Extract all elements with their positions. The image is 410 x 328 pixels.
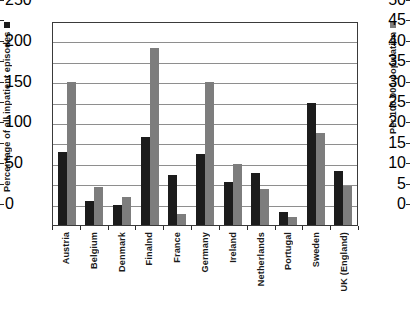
category-label: Ireland — [228, 232, 238, 263]
bar-per-100000-population — [288, 217, 297, 225]
left-tick-mark — [406, 82, 410, 83]
bar-group — [329, 23, 357, 225]
bar-per-100000-population — [316, 133, 325, 225]
right-tick-label: 200 — [5, 32, 32, 50]
category-label: UK (England) — [339, 232, 349, 291]
left-tick-label: 40 — [388, 32, 406, 50]
right-tick-mark — [0, 163, 4, 164]
legend-swatch-percentage — [4, 22, 10, 28]
bar-group — [108, 23, 136, 225]
bar-per-100000-population — [177, 214, 186, 225]
right-tick-mark — [0, 204, 4, 205]
left-tick-label: 25 — [388, 93, 406, 111]
category-tick-marks — [52, 226, 358, 231]
right-tick-mark — [0, 102, 4, 103]
bar-per-100000-population — [233, 164, 242, 225]
left-tick-mark — [406, 0, 410, 1]
right-tick-label: 50 — [5, 154, 23, 172]
left-tick-mark — [406, 163, 410, 164]
bar-chart: Percentage of all inpatient episodes Per… — [0, 0, 410, 328]
left-tick-label: 30 — [388, 73, 406, 91]
left-tick-label: 35 — [388, 52, 406, 70]
bar-group — [219, 23, 247, 225]
bar-percentage-inpatient-episodes — [224, 182, 233, 225]
category-tick-mark — [191, 226, 192, 230]
left-tick-mark — [406, 61, 410, 62]
left-tick-label: 5 — [397, 175, 406, 193]
right-tick-mark — [0, 82, 4, 83]
left-tick-label: 50 — [388, 0, 406, 9]
right-tick-label: 100 — [5, 113, 32, 131]
left-tick-mark — [406, 143, 410, 144]
bar-per-100000-population — [205, 82, 214, 225]
bar-group — [164, 23, 192, 225]
category-tick-mark — [52, 226, 53, 230]
bar-per-100000-population — [343, 186, 352, 225]
bar-per-100000-population — [260, 189, 269, 225]
bar-per-100000-population — [122, 197, 131, 225]
bar-percentage-inpatient-episodes — [58, 152, 67, 225]
category-label: Belgium — [89, 232, 99, 269]
category-tick-mark — [135, 226, 136, 230]
right-tick-mark — [0, 41, 4, 42]
right-tick-mark — [0, 184, 4, 185]
category-label: Portugal — [283, 232, 293, 270]
bar-percentage-inpatient-episodes — [334, 171, 343, 225]
right-tick-mark — [0, 143, 4, 144]
bar-percentage-inpatient-episodes — [113, 205, 122, 225]
bar-percentage-inpatient-episodes — [307, 103, 316, 225]
left-tick-mark — [406, 122, 410, 123]
bar-per-100000-population — [94, 187, 103, 225]
bar-group — [191, 23, 219, 225]
category-label: Sweden — [311, 232, 321, 267]
left-tick-label: 45 — [388, 11, 406, 29]
category-label: Germany — [200, 232, 210, 273]
plot-area — [52, 22, 358, 226]
bar-group — [302, 23, 330, 225]
bar-group — [246, 23, 274, 225]
bar-percentage-inpatient-episodes — [168, 175, 177, 225]
right-tick-mark — [0, 122, 4, 123]
category-tick-mark — [163, 226, 164, 230]
right-tick-label: 150 — [5, 73, 32, 91]
category-label: Finalnd — [144, 232, 154, 265]
right-tick-mark — [0, 0, 4, 1]
category-tick-mark — [330, 226, 331, 230]
right-tick-label: 250 — [5, 0, 32, 9]
category-label: Netherlands — [256, 232, 266, 286]
left-tick-mark — [406, 41, 410, 42]
bar-groups — [53, 23, 357, 225]
category-tick-mark — [302, 226, 303, 230]
category-tick-mark — [358, 226, 359, 230]
bar-percentage-inpatient-episodes — [251, 173, 260, 225]
category-tick-mark — [219, 226, 220, 230]
bar-percentage-inpatient-episodes — [141, 137, 150, 225]
bar-group — [136, 23, 164, 225]
bar-per-100000-population — [67, 82, 76, 225]
bar-percentage-inpatient-episodes — [85, 201, 94, 225]
category-label: Denmark — [117, 232, 127, 272]
bar-group — [274, 23, 302, 225]
bar-percentage-inpatient-episodes — [279, 212, 288, 225]
left-tick-mark — [406, 102, 410, 103]
right-tick-mark — [0, 20, 4, 21]
category-label: Austria — [61, 232, 71, 264]
left-tick-label: 10 — [388, 154, 406, 172]
category-tick-mark — [108, 226, 109, 230]
right-tick-mark — [0, 61, 4, 62]
left-tick-mark — [406, 20, 410, 21]
bar-group — [81, 23, 109, 225]
category-tick-mark — [247, 226, 248, 230]
category-tick-mark — [275, 226, 276, 230]
category-tick-mark — [80, 226, 81, 230]
left-tick-label: 15 — [388, 134, 406, 152]
right-tick-label: 0 — [5, 195, 14, 213]
left-tick-mark — [406, 204, 410, 205]
left-tick-mark — [406, 184, 410, 185]
bar-per-100000-population — [150, 48, 159, 225]
category-labels: AustriaBelgiumDenmarkFinalndFranceGerman… — [52, 232, 358, 326]
category-label: France — [172, 232, 182, 263]
bar-group — [53, 23, 81, 225]
bar-percentage-inpatient-episodes — [196, 154, 205, 225]
left-tick-label: 0 — [397, 195, 406, 213]
